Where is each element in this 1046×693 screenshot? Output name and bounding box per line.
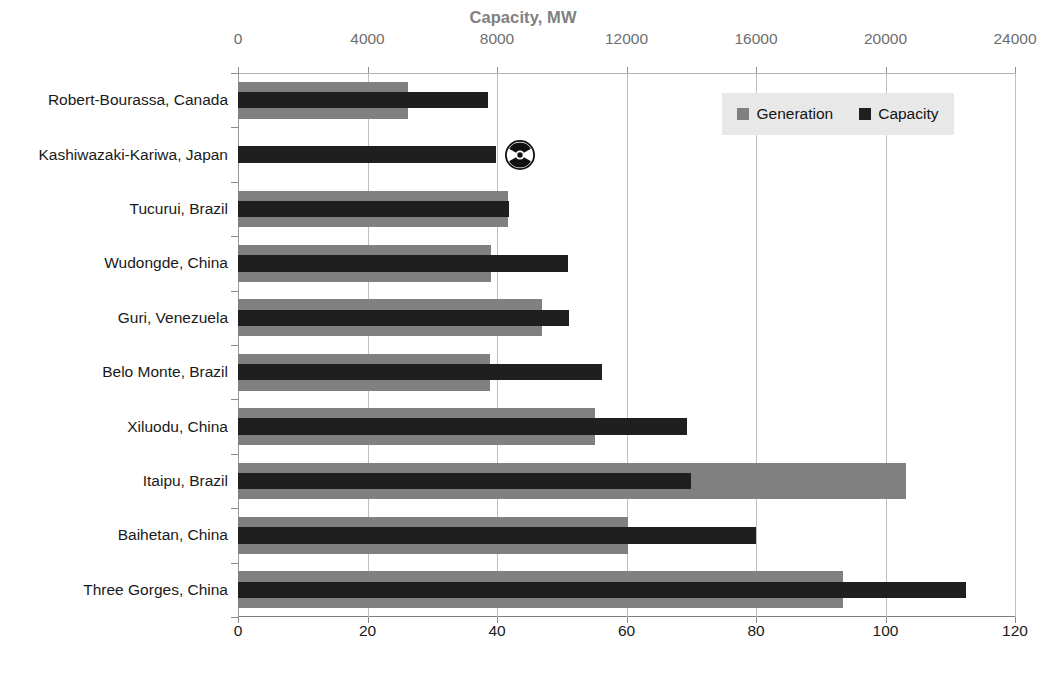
bottom-axis-tick — [1015, 617, 1016, 623]
bar-capacity — [238, 255, 568, 271]
bar-capacity — [238, 364, 602, 380]
bottom-axis-tick-label: 80 — [747, 622, 764, 640]
bar-capacity — [238, 418, 687, 434]
category-axis-tick — [231, 182, 238, 183]
top-axis-tick-label: 4000 — [350, 30, 384, 48]
bar-group — [238, 291, 1015, 345]
bar-group — [238, 399, 1015, 453]
bar-group — [238, 508, 1015, 562]
bottom-axis-tick-label: 60 — [618, 622, 635, 640]
bottom-axis-tick — [627, 617, 628, 623]
category-axis-tick — [231, 236, 238, 237]
chart-legend: GenerationCapacity — [722, 93, 954, 135]
category-axis-tick — [231, 563, 238, 564]
gridline — [1015, 73, 1016, 617]
bar-capacity — [238, 527, 756, 543]
category-label: Kashiwazaki-Kariwa, Japan — [0, 146, 228, 164]
category-axis-tick — [231, 454, 238, 455]
category-axis-tick — [231, 617, 238, 618]
bar-capacity — [238, 310, 569, 326]
bar-capacity — [238, 473, 691, 489]
category-axis-tick — [231, 73, 238, 74]
category-axis-tick — [231, 291, 238, 292]
category-label: Three Gorges, China — [0, 581, 228, 599]
legend-swatch — [737, 108, 749, 120]
bottom-axis-tick-label: 40 — [488, 622, 505, 640]
category-label: Tucurui, Brazil — [0, 200, 228, 218]
bottom-axis-tick-label: 20 — [359, 622, 376, 640]
bottom-axis-tick-label: 120 — [1002, 622, 1028, 640]
category-axis-tick — [231, 345, 238, 346]
bottom-axis-tick — [368, 617, 369, 623]
category-axis-tick — [231, 508, 238, 509]
bar-capacity — [238, 582, 966, 598]
bottom-axis-tick-label: 0 — [234, 622, 243, 640]
bar-group — [238, 454, 1015, 508]
bottom-axis-tick — [497, 617, 498, 623]
bottom-axis-tick — [238, 617, 239, 623]
legend-item: Generation — [737, 105, 833, 123]
legend-swatch — [859, 108, 871, 120]
bar-capacity — [238, 146, 496, 162]
top-axis-tick-label: 8000 — [480, 30, 514, 48]
category-label: Xiluodu, China — [0, 418, 228, 436]
category-label: Itaipu, Brazil — [0, 472, 228, 490]
bottom-axis-tick-label: 100 — [873, 622, 899, 640]
bottom-axis-tick — [886, 617, 887, 623]
radiation-icon — [505, 140, 535, 170]
top-axis-tick-label: 0 — [234, 30, 243, 48]
category-label: Robert-Bourassa, Canada — [0, 91, 228, 109]
category-axis-tick — [231, 399, 238, 400]
bar-capacity — [238, 201, 509, 217]
top-axis-tick — [1015, 67, 1016, 73]
bar-capacity — [238, 92, 488, 108]
top-axis-tick-label: 12000 — [605, 30, 648, 48]
legend-label: Generation — [756, 105, 833, 123]
bar-chart: Capacity, MW 040008000120001600020000240… — [0, 0, 1046, 693]
top-axis-title: Capacity, MW — [0, 8, 1046, 27]
bar-group — [238, 182, 1015, 236]
bar-group — [238, 345, 1015, 399]
top-axis-tick-label: 24000 — [993, 30, 1036, 48]
bottom-axis-tick — [756, 617, 757, 623]
category-label: Baihetan, China — [0, 526, 228, 544]
category-label: Belo Monte, Brazil — [0, 363, 228, 381]
top-axis-tick-label: 16000 — [734, 30, 777, 48]
plot-area — [238, 73, 1015, 617]
category-label: Guri, Venezuela — [0, 309, 228, 327]
category-label: Wudongde, China — [0, 254, 228, 272]
legend-label: Capacity — [878, 105, 938, 123]
bar-group — [238, 563, 1015, 617]
bar-group — [238, 127, 1015, 181]
bar-group — [238, 236, 1015, 290]
category-axis-tick — [231, 127, 238, 128]
legend-item: Capacity — [859, 105, 938, 123]
top-axis-tick-label: 20000 — [864, 30, 907, 48]
